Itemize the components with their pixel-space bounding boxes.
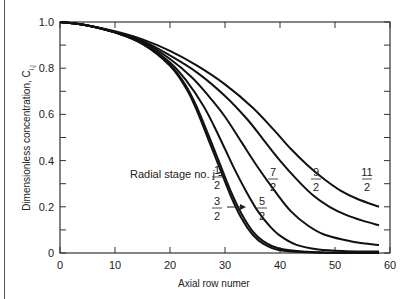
y-axis-title: Dimensionless concentration, Ci,j — [21, 65, 36, 211]
x-tick-label: 30 — [219, 259, 231, 271]
x-tick-label: 40 — [274, 259, 286, 271]
svg-text:5: 5 — [259, 195, 265, 207]
x-tick-label: 50 — [329, 259, 341, 271]
svg-text:2: 2 — [214, 210, 220, 222]
svg-text:3: 3 — [214, 195, 220, 207]
x-tick-label: 10 — [109, 259, 121, 271]
x-axis-title: Axial row numer — [178, 278, 250, 289]
x-tick-label: 60 — [384, 259, 396, 271]
label-j-7-2: 72 — [268, 166, 278, 193]
y-tick-label: 0.4 — [39, 155, 54, 167]
svg-text:2: 2 — [270, 181, 276, 193]
x-tick-label: 0 — [57, 259, 63, 271]
svg-text:1: 1 — [214, 164, 220, 176]
curve-labels: Radial stage no. j =1232527292112 — [130, 164, 373, 222]
radial-stage-label: Radial stage no. j = — [130, 168, 224, 180]
y-tick-label: 0.6 — [39, 108, 54, 120]
svg-text:7: 7 — [270, 166, 276, 178]
label-j-5-2: 52 — [257, 195, 267, 222]
y-tick-label: 1.0 — [39, 16, 54, 28]
y-tick-label: 0.8 — [39, 62, 54, 74]
plot-frame — [60, 22, 390, 253]
y-tick-label: 0.2 — [39, 201, 54, 213]
svg-text:2: 2 — [214, 179, 220, 191]
svg-text:11: 11 — [361, 166, 372, 178]
axes: 010203040506000.20.40.60.81.0 — [39, 16, 396, 271]
svg-text:2: 2 — [259, 210, 265, 222]
label-j-9-2: 92 — [311, 166, 321, 193]
x-tick-label: 20 — [164, 259, 176, 271]
label-j-11-2: 112 — [361, 166, 372, 193]
concentration-chart: 010203040506000.20.40.60.81.0 Radial sta… — [0, 0, 412, 299]
svg-text:2: 2 — [313, 181, 319, 193]
arrow-head-icon — [240, 204, 246, 210]
y-tick-label: 0 — [48, 247, 54, 259]
svg-text:9: 9 — [313, 166, 319, 178]
svg-text:2: 2 — [364, 181, 370, 193]
label-j-3-2: 32 — [212, 195, 222, 222]
